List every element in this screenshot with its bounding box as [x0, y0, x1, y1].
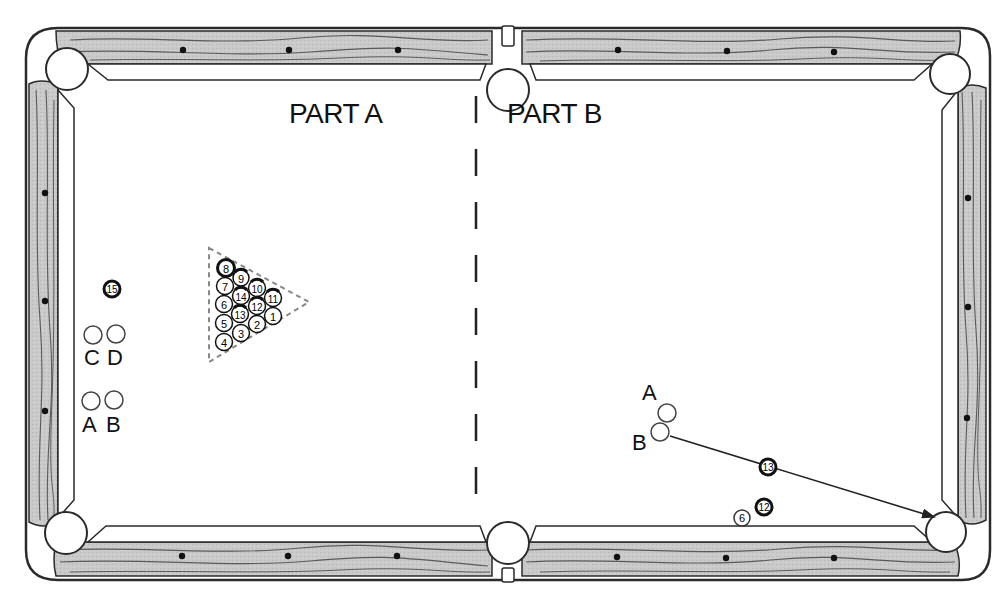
svg-text:3: 3 — [238, 328, 244, 340]
cue-position-b-part-b — [651, 423, 669, 441]
svg-text:12: 12 — [251, 302, 263, 313]
cue-position-a — [82, 392, 100, 410]
label-b: B — [106, 412, 121, 438]
svg-text:12: 12 — [758, 502, 770, 513]
svg-text:11: 11 — [268, 294, 279, 305]
pocket-bottom-left — [45, 512, 87, 554]
svg-text:4: 4 — [221, 337, 227, 349]
label-b-part-b: B — [632, 430, 647, 456]
cue-position-c — [84, 326, 102, 344]
pocket-bottom-center — [487, 522, 529, 564]
svg-text:9: 9 — [238, 273, 244, 285]
top-rail-right — [522, 31, 960, 64]
ball-6: 6 — [734, 510, 750, 526]
svg-text:8: 8 — [223, 263, 229, 275]
part-a-label: PART A — [289, 98, 383, 130]
ball-12: 12 — [756, 499, 772, 515]
svg-text:13: 13 — [234, 310, 246, 321]
right-rail — [958, 85, 986, 524]
svg-text:10: 10 — [251, 284, 263, 295]
cue-position-a-part-b — [658, 404, 676, 422]
bottom-rail-right — [522, 542, 959, 576]
top-rail-left — [56, 31, 492, 64]
billiards-diagram: 8 9 10 11 7 14 12 1 6 13 2 5 3 4 15 — [0, 0, 1008, 602]
svg-text:1: 1 — [270, 311, 276, 323]
svg-text:15: 15 — [106, 284, 118, 295]
label-a: A — [82, 412, 97, 438]
label-d: D — [107, 345, 123, 371]
svg-text:6: 6 — [221, 299, 227, 311]
svg-text:13: 13 — [762, 462, 774, 473]
svg-text:5: 5 — [221, 318, 227, 330]
cue-position-b — [105, 391, 123, 409]
pocket-top-right — [930, 54, 970, 94]
ball-13: 13 — [760, 459, 776, 475]
cue-position-d — [107, 325, 125, 343]
svg-text:2: 2 — [254, 319, 260, 331]
label-c: C — [84, 345, 100, 371]
pocket-top-left — [46, 48, 88, 90]
bottom-rail-left — [54, 542, 492, 576]
label-a-part-b: A — [642, 380, 657, 406]
ball-15: 15 — [104, 281, 120, 297]
svg-text:7: 7 — [222, 281, 228, 293]
svg-text:14: 14 — [235, 292, 247, 303]
part-b-label: PART B — [507, 98, 602, 130]
pocket-bottom-right — [926, 512, 966, 552]
svg-text:6: 6 — [739, 512, 745, 524]
